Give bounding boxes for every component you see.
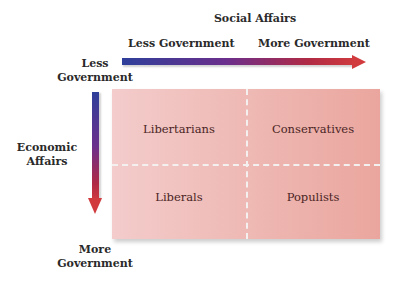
y-axis-top-label-line1: Less — [55, 57, 135, 71]
y-axis-top-label: Less Government — [55, 57, 135, 85]
y-axis-bottom-label-line1: More — [55, 243, 135, 257]
y-axis-bottom-label: More Government — [55, 243, 135, 271]
vertical-divider — [246, 89, 248, 239]
x-axis-arrow-shaft — [122, 58, 354, 65]
x-axis-left-label: Less Government — [128, 37, 232, 51]
arrow-right-icon — [352, 55, 366, 69]
x-axis-right-label: More Government — [258, 37, 368, 51]
y-axis-title-line1: Economic — [16, 141, 78, 155]
y-axis-title: Economic Affairs — [16, 141, 78, 169]
quadrant-libertarians: Libertarians — [112, 122, 246, 136]
y-axis-bottom-label-line2: Government — [55, 257, 135, 271]
y-axis-title-line2: Affairs — [16, 155, 78, 169]
arrow-down-icon — [88, 198, 102, 214]
quadrant-conservatives: Conservatives — [246, 122, 380, 136]
quadrant-liberals: Liberals — [112, 190, 246, 204]
y-axis-arrow-shaft — [92, 92, 99, 200]
quadrant-populists: Populists — [246, 190, 380, 204]
y-axis-top-label-line2: Government — [55, 71, 135, 85]
x-axis-title: Social Affairs — [205, 12, 305, 26]
